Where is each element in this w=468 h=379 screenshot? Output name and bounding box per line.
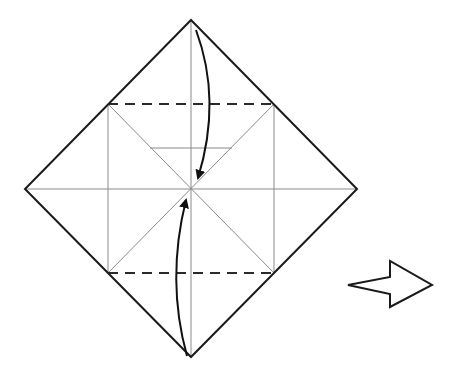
bottom-fold-arrow-icon bbox=[176, 200, 187, 356]
origami-diagram bbox=[0, 0, 468, 379]
next-step-arrow-icon bbox=[348, 261, 432, 307]
